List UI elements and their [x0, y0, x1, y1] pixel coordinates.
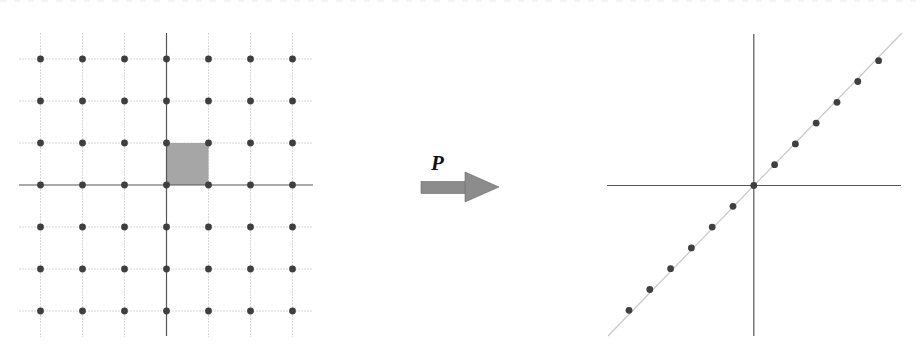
projected-point — [813, 120, 820, 127]
lattice-point — [163, 140, 170, 147]
arrow-shaft — [421, 182, 466, 194]
lattice-point — [37, 266, 44, 273]
lattice-point — [289, 98, 296, 105]
lattice-point — [121, 308, 128, 315]
lattice-point — [79, 266, 86, 273]
lattice-point — [289, 266, 296, 273]
lattice-point — [247, 266, 254, 273]
lattice-point — [205, 140, 212, 147]
lattice-point — [79, 182, 86, 189]
projected-point — [750, 182, 757, 189]
lattice-point — [163, 266, 170, 273]
lattice-point — [205, 266, 212, 273]
lattice-point — [247, 98, 254, 105]
lattice-point — [121, 224, 128, 231]
lattice-point — [247, 140, 254, 147]
lattice-point — [289, 182, 296, 189]
lattice-point — [121, 98, 128, 105]
lattice-point — [37, 308, 44, 315]
projected-point — [646, 286, 653, 293]
lattice-point — [121, 56, 128, 63]
lattice-point — [79, 140, 86, 147]
projected-point — [667, 265, 674, 272]
lattice-point — [205, 308, 212, 315]
lattice-point — [163, 182, 170, 189]
lattice-point — [205, 56, 212, 63]
lattice-point — [163, 308, 170, 315]
lattice-point — [79, 56, 86, 63]
lattice-point — [247, 56, 254, 63]
lattice-point — [289, 140, 296, 147]
lattice-point — [79, 98, 86, 105]
lattice-point — [79, 224, 86, 231]
projected-point — [709, 224, 716, 231]
lattice-point — [163, 224, 170, 231]
left-lattice-panel — [19, 33, 313, 337]
projected-point — [730, 203, 737, 210]
projected-point — [854, 78, 861, 85]
lattice-point — [163, 56, 170, 63]
lattice-point — [121, 182, 128, 189]
lattice-point — [289, 308, 296, 315]
lattice-point — [37, 56, 44, 63]
diagram-canvas — [0, 0, 920, 359]
projected-point — [834, 99, 841, 106]
transform-arrow-icon — [421, 172, 499, 202]
unit-square — [167, 143, 209, 185]
lattice-point — [247, 224, 254, 231]
projected-point — [626, 307, 633, 314]
projected-point — [688, 245, 695, 252]
transform-label-p: P — [431, 153, 444, 174]
lattice-point — [205, 98, 212, 105]
lattice-point — [205, 182, 212, 189]
projected-point — [875, 57, 882, 64]
lattice-point — [163, 98, 170, 105]
lattice-point — [289, 224, 296, 231]
lattice-point — [289, 56, 296, 63]
lattice-point — [247, 308, 254, 315]
lattice-point — [205, 224, 212, 231]
lattice-point — [121, 266, 128, 273]
projected-point — [771, 161, 778, 168]
projected-point — [792, 141, 799, 148]
lattice-point — [79, 308, 86, 315]
lattice-point — [247, 182, 254, 189]
right-projection-panel — [607, 33, 902, 336]
lattice-point — [37, 140, 44, 147]
lattice-point — [121, 140, 128, 147]
lattice-point — [37, 182, 44, 189]
arrow-head — [465, 172, 499, 202]
lattice-point — [37, 224, 44, 231]
lattice-point — [37, 98, 44, 105]
